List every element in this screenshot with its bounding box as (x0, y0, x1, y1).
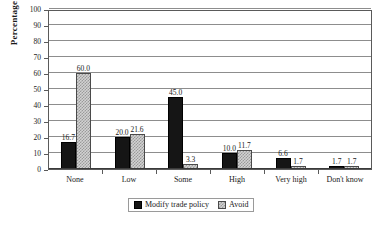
x-tick-label: Very high (264, 175, 318, 184)
x-tick-mark (318, 170, 319, 174)
bar-group: 6.61.7 (264, 11, 318, 169)
x-tick-label: Don't know (318, 175, 372, 184)
bar[interactable]: 10.0 (222, 153, 237, 169)
x-tick-label: Some (156, 175, 210, 184)
x-axis-line (49, 168, 371, 169)
x-axis-labels: NoneLowSomeHighVery highDon't know (48, 175, 372, 184)
bar-pair: 20.021.6 (103, 11, 157, 169)
x-tick-label: High (210, 175, 264, 184)
x-tick-mark (264, 170, 265, 174)
x-tick-mark (102, 170, 103, 174)
legend-item[interactable]: Avoid (218, 200, 248, 209)
y-tick-label: 20 (34, 133, 42, 142)
y-tick-label: 70 (34, 53, 42, 62)
y-tick-label: 60 (34, 69, 42, 78)
bar-value-label: 16.7 (62, 133, 75, 142)
bar-value-label: 1.7 (293, 157, 302, 166)
gridline (49, 8, 371, 9)
y-tick-label: 30 (34, 117, 42, 126)
bar-value-label: 10.0 (223, 144, 236, 153)
y-tick-label: 80 (34, 37, 42, 46)
bar-pair: 6.61.7 (264, 11, 318, 169)
bar-group: 1.71.7 (317, 11, 371, 169)
chart-legend: Modify trade policyAvoid (128, 198, 254, 212)
x-tick-label: Low (102, 175, 156, 184)
bar-group: 16.760.0 (49, 11, 103, 169)
bar[interactable]: 11.7 (237, 150, 252, 169)
bar-group: 45.03.3 (156, 11, 210, 169)
x-axis-ticks (48, 170, 372, 174)
bar-value-label: 45.0 (169, 88, 182, 97)
bar-value-label: 11.7 (238, 141, 251, 150)
bar[interactable]: 45.0 (168, 97, 183, 169)
bar-value-label: 6.6 (278, 149, 287, 158)
bar-value-label: 1.7 (347, 157, 356, 166)
x-tick-label: None (48, 175, 102, 184)
y-tick-label: 50 (34, 85, 42, 94)
y-tick-label: 100 (30, 5, 41, 14)
y-axis-ticks: 0102030405060708090100 (0, 10, 48, 170)
bar-pair: 10.011.7 (210, 11, 264, 169)
bar[interactable]: 16.7 (61, 142, 76, 169)
bar-pair: 16.760.0 (49, 11, 103, 169)
bar[interactable]: 60.0 (76, 73, 91, 169)
bar[interactable]: 21.6 (130, 134, 145, 169)
legend-item[interactable]: Modify trade policy (134, 200, 209, 209)
bar-group: 20.021.6 (103, 11, 157, 169)
bar-value-label: 21.6 (130, 125, 143, 134)
y-tick-label: 90 (34, 21, 42, 30)
y-tick-label: 40 (34, 101, 42, 110)
bar-groups: 16.760.020.021.645.03.310.011.76.61.71.7… (49, 11, 371, 169)
legend-label: Avoid (229, 200, 248, 209)
bar-value-label: 60.0 (77, 64, 90, 73)
bar-value-label: 1.7 (332, 157, 341, 166)
bar-pair: 1.71.7 (317, 11, 371, 169)
bar-value-label: 3.3 (186, 155, 195, 164)
bar-chart: Percentage 0102030405060708090100 16.760… (0, 0, 389, 226)
bar-group: 10.011.7 (210, 11, 264, 169)
bar-value-label: 20.0 (115, 128, 128, 137)
bar-pair: 45.03.3 (156, 11, 210, 169)
plot-area: 16.760.020.021.645.03.310.011.76.61.71.7… (48, 10, 372, 170)
bar[interactable]: 20.0 (115, 137, 130, 169)
x-tick-mark (210, 170, 211, 174)
y-tick-label: 10 (34, 149, 42, 158)
legend-label: Modify trade policy (145, 200, 209, 209)
stippled-square-icon (218, 201, 226, 209)
black-square-icon (134, 201, 142, 209)
y-tick-label: 0 (37, 165, 41, 174)
x-tick-mark (156, 170, 157, 174)
